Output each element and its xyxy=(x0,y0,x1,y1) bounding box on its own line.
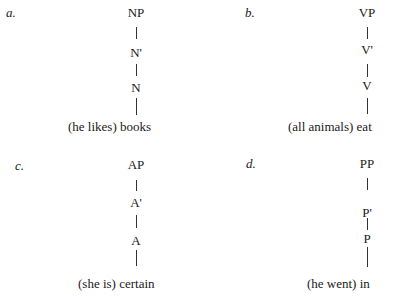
branch-line xyxy=(136,215,137,228)
branch-line xyxy=(136,27,137,39)
branch-line xyxy=(367,247,368,267)
leaf-text: (she is) certain xyxy=(78,277,155,290)
branch-line xyxy=(136,250,137,266)
branch-line xyxy=(367,98,368,114)
branch-line xyxy=(136,98,137,115)
branch-line xyxy=(367,218,368,230)
leaf-text: (all animals) eat xyxy=(288,120,372,133)
branch-line xyxy=(136,64,137,76)
leaf-text: (he went) in xyxy=(307,277,370,290)
bar-node: V' xyxy=(361,43,373,56)
head-node: V xyxy=(362,79,371,92)
phrase-node: VP xyxy=(359,6,376,19)
tree-label: d. xyxy=(246,156,256,172)
phrase-node: PP xyxy=(360,157,374,170)
phrase-node: NP xyxy=(128,6,145,19)
head-node: A xyxy=(131,234,140,247)
bar-node: A' xyxy=(130,196,142,209)
phrase-node: AP xyxy=(128,158,145,171)
head-node: N xyxy=(131,81,140,94)
bar-node: N' xyxy=(130,46,142,59)
branch-line xyxy=(367,178,368,190)
tree-label: a. xyxy=(6,5,16,21)
head-node: P xyxy=(363,232,370,245)
tree-label: c. xyxy=(15,158,24,174)
leaf-text: (he likes) books xyxy=(68,120,151,133)
branch-line xyxy=(136,180,137,191)
branch-line xyxy=(367,27,368,39)
branch-line xyxy=(367,64,368,77)
tree-label: b. xyxy=(245,5,255,21)
